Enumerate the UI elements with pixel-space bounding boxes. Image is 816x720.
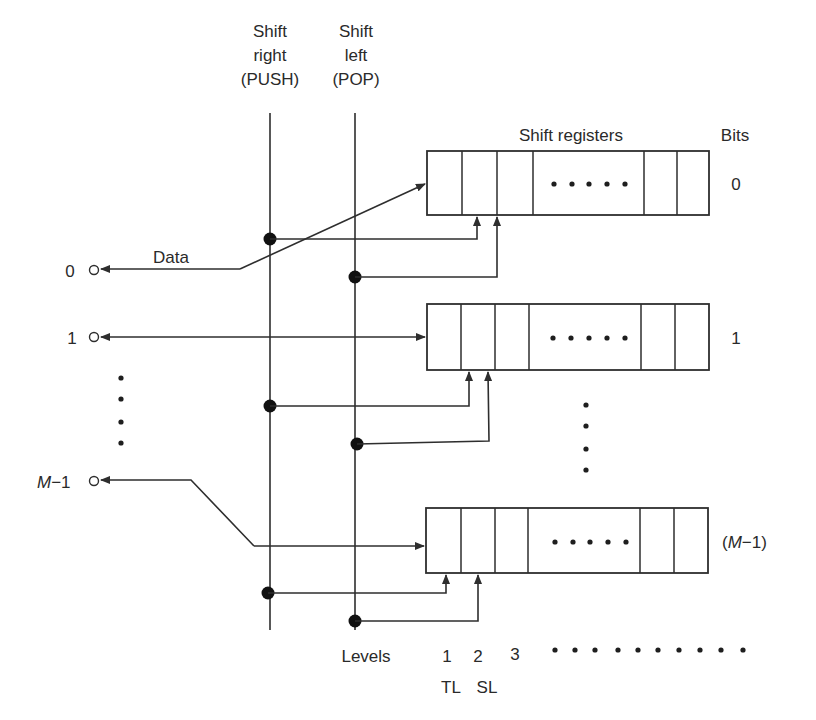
bit-label-m-minus-1: (M−1): [722, 533, 767, 552]
data-label: Data: [153, 248, 189, 267]
terminal-m-minus-1: [90, 477, 99, 486]
terminal-label-0: 0: [65, 262, 74, 281]
level-1: 1: [442, 647, 451, 666]
push-wire-m-minus-1: [268, 575, 446, 593]
register-m-minus-1: [426, 508, 708, 573]
top-level-label: TL: [441, 678, 461, 697]
push-label: Shift right (PUSH): [241, 22, 300, 89]
pop-label: Shift left (POP): [332, 22, 379, 89]
second-level-label: SL: [477, 678, 498, 697]
bit-label-0: 0: [731, 175, 740, 194]
terminal-1: [90, 333, 99, 342]
push-wire-0: [270, 217, 477, 239]
terminal-label-1: 1: [67, 329, 76, 348]
terminal-label-m-minus-1: M−1: [37, 473, 71, 492]
pop-label-line2: left: [345, 46, 368, 65]
push-wire-1: [270, 372, 469, 406]
register-stack-ellipsis: [583, 402, 588, 472]
push-label-line1: Shift: [253, 22, 287, 41]
level-2: 2: [473, 647, 482, 666]
pop-wire-0: [355, 217, 497, 277]
level-3: 3: [510, 645, 519, 664]
register-0: [427, 151, 709, 215]
shift-registers-label: Shift registers: [519, 126, 623, 145]
bits-label: Bits: [721, 126, 749, 145]
pop-label-line3: (POP): [332, 70, 379, 89]
bit-label-1: 1: [731, 329, 740, 348]
register-1: [427, 304, 709, 370]
data-in-wire-0: [240, 184, 425, 269]
terminal-0: [90, 266, 99, 275]
push-label-line2: right: [253, 46, 286, 65]
stack-diagram: Shift right (PUSH) Shift left (POP) Shif…: [0, 0, 816, 720]
data-out-wire-m-minus-1: [101, 480, 254, 546]
pop-wire-m-minus-1: [355, 575, 478, 621]
levels-ellipsis: [552, 647, 745, 652]
terminal-ellipsis: [118, 375, 123, 445]
pop-label-line1: Shift: [339, 22, 373, 41]
push-label-line3: (PUSH): [241, 70, 300, 89]
levels-label: Levels: [341, 647, 390, 666]
